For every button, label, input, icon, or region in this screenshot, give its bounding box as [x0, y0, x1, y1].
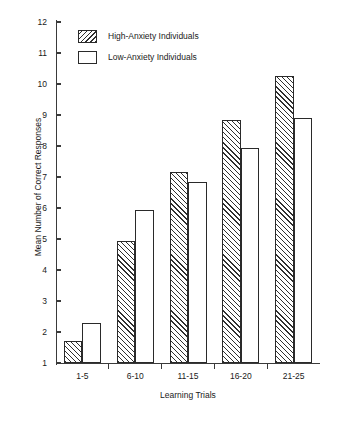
y-tick-mark [56, 269, 61, 270]
y-tick-mark [56, 83, 61, 84]
y-tick-mark [56, 331, 61, 332]
y-tick-mark [56, 176, 61, 177]
legend-label-low-anxiety: Low-Anxiety Individuals [108, 53, 197, 62]
bar [117, 241, 136, 363]
chart-legend: High-Anxiety Individuals Low-Anxiety Ind… [78, 27, 199, 69]
y-tick-mark [56, 300, 61, 301]
bar [222, 120, 241, 363]
legend-entry-low-anxiety: Low-Anxiety Individuals [78, 48, 199, 66]
y-tick-label: 3 [25, 297, 47, 306]
y-tick-mark [56, 145, 61, 146]
y-axis-title: Mean Number of Correct Responses [33, 92, 43, 282]
y-tick-label: 11 [25, 49, 47, 58]
legend-label-high-anxiety: High-Anxiety Individuals [108, 32, 199, 41]
bar [188, 182, 207, 363]
hatched-swatch-icon [78, 30, 97, 43]
x-tick-label: 1-5 [56, 371, 109, 381]
y-tick-mark [56, 238, 61, 239]
x-tick-mark [108, 363, 109, 369]
y-tick-mark [56, 362, 61, 363]
bar [241, 148, 260, 363]
y-tick-label: 12 [25, 18, 47, 27]
bar [135, 210, 154, 363]
x-tick-label: 16-20 [214, 371, 267, 381]
legend-entry-high-anxiety: High-Anxiety Individuals [78, 27, 199, 45]
x-tick-mark [267, 363, 268, 369]
bar [170, 172, 189, 363]
x-tick-label: 21-25 [267, 371, 320, 381]
y-tick-label: 1 [25, 359, 47, 368]
bar-chart-figure: 123456789101112 1-56-1011-1516-2021-25 H… [0, 0, 350, 427]
x-axis-title: Learning Trials [56, 390, 320, 400]
y-tick-label: 2 [25, 328, 47, 337]
y-tick-label: 10 [25, 80, 47, 89]
x-tick-mark [161, 363, 162, 369]
x-tick-label: 11-15 [162, 371, 215, 381]
x-tick-label: 6-10 [109, 371, 162, 381]
y-tick-mark [56, 52, 61, 53]
scan-noise-artifact [0, 0, 350, 6]
bar [82, 323, 101, 363]
y-tick-mark [56, 21, 61, 22]
y-axis-line [56, 20, 57, 365]
y-tick-mark [56, 114, 61, 115]
x-axis-line [56, 363, 320, 364]
bar [64, 341, 83, 363]
bar [294, 118, 313, 363]
empty-swatch-icon [78, 51, 97, 64]
y-tick-mark [56, 207, 61, 208]
bar [275, 76, 294, 363]
x-tick-mark [214, 363, 215, 369]
